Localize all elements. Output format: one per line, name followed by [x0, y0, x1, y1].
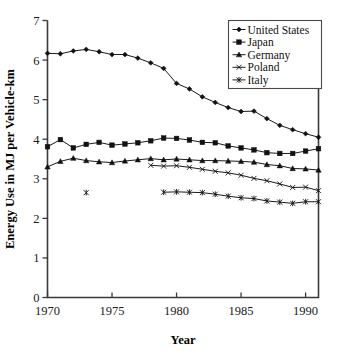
chart-canvas: 0123456719701975198019851990YearEnergy U… — [0, 0, 341, 354]
data-point-united-states-1977 — [135, 56, 140, 61]
data-point-united-states-1981 — [187, 87, 192, 92]
data-point-united-states-1985 — [239, 109, 244, 114]
data-point-japan-1991 — [316, 146, 321, 151]
energy-use-line-chart: 0123456719701975198019851990YearEnergy U… — [0, 0, 341, 354]
y-axis-title: Energy Use in MJ per Vehicle-km — [3, 68, 17, 249]
data-point-united-states-1990 — [303, 131, 308, 136]
y-tick-label-5: 5 — [33, 93, 39, 107]
data-point-japan-1977 — [136, 140, 141, 145]
data-point-japan-1978 — [148, 138, 153, 143]
legend-label-italy: Italy — [248, 74, 269, 87]
data-point-japan-1989 — [290, 151, 295, 156]
legend-label-japan: Japan — [248, 36, 274, 49]
data-point-united-states-1984 — [226, 105, 231, 110]
data-point-united-states-1974 — [97, 49, 102, 54]
x-tick-label-1985: 1985 — [229, 304, 254, 318]
y-tick-label-6: 6 — [33, 54, 39, 68]
data-point-united-states-1975 — [110, 52, 115, 57]
data-point-germany-1970 — [45, 164, 50, 169]
data-point-japan-1981 — [187, 138, 192, 143]
data-point-italy-isolated-1973 — [84, 190, 89, 196]
x-tick-label-1975: 1975 — [100, 304, 125, 318]
x-tick-label-1980: 1980 — [164, 304, 189, 318]
data-point-united-states-1987 — [264, 116, 269, 121]
data-point-japan-1984 — [226, 144, 231, 149]
data-point-united-states-1972 — [71, 49, 76, 54]
data-point-united-states-1970 — [45, 51, 50, 56]
y-tick-label-3: 3 — [33, 172, 39, 186]
data-point-united-states-1982 — [200, 94, 205, 99]
data-point-japan-1971 — [58, 137, 63, 142]
data-point-japan-1980 — [174, 136, 179, 141]
data-point-united-states-1976 — [123, 52, 128, 57]
data-point-united-states-1971 — [58, 51, 63, 56]
data-point-japan-1990 — [303, 149, 308, 154]
x-tick-label-1990: 1990 — [293, 304, 318, 318]
data-point-germany-1972 — [71, 156, 76, 161]
data-point-japan-1988 — [277, 151, 282, 156]
data-point-japan-1973 — [84, 142, 89, 147]
legend-marker-japan — [237, 40, 242, 45]
data-point-united-states-1978 — [148, 60, 153, 65]
data-point-japan-1987 — [265, 150, 270, 155]
legend-label-poland: Poland — [248, 61, 280, 73]
data-point-united-states-1983 — [213, 100, 218, 105]
data-point-japan-1979 — [161, 136, 166, 141]
data-point-japan-1975 — [110, 143, 115, 148]
data-point-japan-1970 — [45, 144, 50, 149]
y-tick-label-4: 4 — [33, 133, 40, 147]
data-point-united-states-1991 — [316, 135, 321, 140]
legend-label-united-states: United States — [248, 24, 310, 36]
x-axis-title: Year — [171, 333, 196, 347]
data-point-united-states-1986 — [252, 109, 257, 114]
y-tick-label-2: 2 — [33, 212, 39, 226]
y-tick-label-7: 7 — [33, 14, 39, 28]
data-point-united-states-1988 — [277, 123, 282, 128]
data-point-japan-1974 — [97, 140, 102, 145]
data-point-japan-1983 — [213, 140, 218, 145]
data-point-japan-1982 — [200, 140, 205, 145]
y-tick-label-1: 1 — [33, 251, 39, 265]
data-point-japan-1976 — [123, 142, 128, 147]
legend-label-germany: Germany — [248, 49, 291, 62]
data-point-japan-1985 — [239, 146, 244, 151]
x-tick-label-1970: 1970 — [35, 304, 60, 318]
data-point-united-states-1989 — [290, 127, 295, 132]
series-line-germany — [48, 158, 319, 170]
data-point-united-states-1973 — [84, 47, 89, 52]
data-point-japan-1986 — [252, 148, 257, 153]
data-point-japan-1972 — [71, 146, 76, 151]
